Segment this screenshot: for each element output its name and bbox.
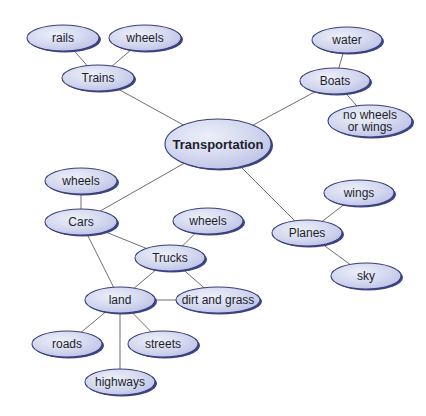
node-no-wheels-or-wings: no wheelsor wings: [328, 105, 414, 139]
node-label: no wheelsor wings: [343, 108, 397, 134]
node-label: wheels: [61, 174, 99, 188]
node-label: streets: [145, 337, 181, 351]
node-label: Trains: [82, 71, 115, 85]
node-cars-wheels: wheels: [45, 168, 119, 196]
node-label: dirt and grass: [182, 293, 255, 307]
node-transportation: Transportation: [165, 119, 273, 171]
node-trains-wheels: wheels: [109, 25, 183, 53]
node-streets: streets: [128, 331, 200, 359]
node-label: Planes: [289, 226, 326, 240]
node-label: highways: [95, 375, 145, 389]
node-label: Transportation: [172, 137, 263, 152]
node-land: land: [85, 287, 157, 315]
node-sky: sky: [331, 263, 403, 291]
node-trucks: Trucks: [135, 245, 207, 273]
node-label: Boats: [320, 74, 351, 88]
nodes-layer: TransportationTrainsrailswheelsBoatswate…: [27, 25, 414, 397]
concept-map: TransportationTrainsrailswheelsBoatswate…: [0, 0, 426, 416]
node-label: Cars: [68, 215, 93, 229]
node-label: roads: [52, 337, 82, 351]
node-cars: Cars: [45, 209, 119, 237]
node-label: sky: [357, 269, 375, 283]
node-label: land: [109, 293, 132, 307]
node-roads: roads: [32, 331, 104, 359]
node-label: water: [331, 33, 361, 47]
node-trucks-wheels: wheels: [173, 208, 245, 236]
node-planes: Planes: [272, 220, 344, 248]
node-water: water: [312, 27, 384, 55]
node-highways: highways: [85, 369, 157, 397]
node-boats: Boats: [300, 68, 372, 96]
node-label: Trucks: [152, 251, 188, 265]
node-label: wheels: [125, 31, 163, 45]
node-dirt-and-grass: dirt and grass: [176, 287, 262, 315]
node-label: wheels: [188, 214, 226, 228]
node-label: wings: [343, 186, 375, 200]
node-label: rails: [52, 31, 74, 45]
node-wings: wings: [324, 180, 396, 208]
node-rails: rails: [27, 25, 101, 53]
node-trains: Trains: [62, 65, 136, 93]
